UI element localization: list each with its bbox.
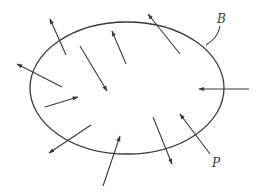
boundary-vector-diagram: B P	[0, 0, 261, 192]
vector-arrow	[80, 46, 107, 91]
vector-arrow	[17, 64, 62, 87]
vector-arrow-at-p	[180, 114, 210, 154]
vector-arrow	[103, 136, 120, 186]
vector-arrow	[50, 19, 66, 55]
vector-arrow	[49, 125, 91, 153]
vector-arrow	[45, 97, 78, 107]
point-label: P	[211, 156, 221, 170]
vector-arrow	[148, 14, 180, 54]
boundary-label-leader	[206, 26, 220, 45]
vector-arrow	[153, 117, 172, 164]
boundary-label: B	[216, 12, 226, 26]
vector-arrow	[112, 31, 126, 64]
